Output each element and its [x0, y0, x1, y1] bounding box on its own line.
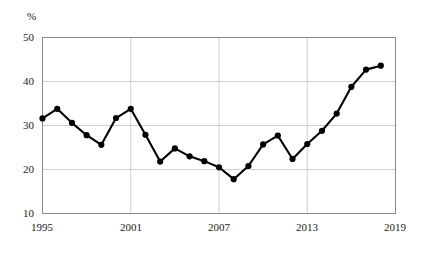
data-point-2011 [275, 133, 281, 139]
plot-area [0, 0, 421, 253]
data-point-2012 [289, 156, 295, 162]
data-point-2007 [216, 164, 222, 170]
grid-lines [43, 38, 396, 214]
data-point-2010 [260, 141, 266, 147]
data-point-2015 [334, 111, 340, 117]
data-point-2008 [231, 176, 237, 182]
data-point-1997 [69, 120, 75, 126]
data-point-1995 [39, 115, 45, 121]
data-point-2013 [304, 141, 310, 147]
data-point-2006 [201, 158, 207, 164]
data-point-2018 [378, 63, 384, 69]
data-point-1996 [54, 106, 60, 112]
line-chart: % 50 40 30 20 10 1995 2001 2007 2013 201… [0, 0, 421, 253]
series-line-1 [43, 66, 381, 180]
data-point-1999 [98, 142, 104, 148]
data-point-1998 [84, 132, 90, 138]
data-point-2017 [363, 67, 369, 73]
data-point-2014 [319, 128, 325, 134]
data-point-2002 [142, 132, 148, 138]
data-point-2005 [186, 153, 192, 159]
data-point-2001 [128, 106, 134, 112]
data-point-2000 [113, 115, 119, 121]
data-point-2009 [245, 163, 251, 169]
data-point-2016 [348, 84, 354, 90]
data-point-2003 [157, 158, 163, 164]
data-point-2004 [172, 145, 178, 151]
